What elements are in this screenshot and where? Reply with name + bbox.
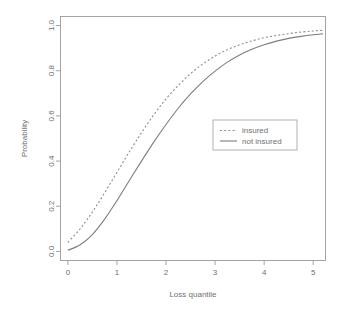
y-tick-label-0.8: 0.8 xyxy=(47,65,56,77)
legend-label-insured: insured xyxy=(242,126,268,135)
x-tick-label-4: 4 xyxy=(262,268,267,277)
x-tick-label-0: 0 xyxy=(66,268,71,277)
y-tick-label-0.4: 0.4 xyxy=(47,155,56,167)
y-tick-label-1.0: 1.0 xyxy=(47,19,56,31)
y-tick-label-0.2: 0.2 xyxy=(47,200,56,212)
y-tick-label-0.6: 0.6 xyxy=(47,110,56,122)
x-tick-label-2: 2 xyxy=(164,268,169,277)
legend-label-not-insured: not insured xyxy=(242,137,282,146)
y-tick-label-0.0: 0.0 xyxy=(47,245,56,257)
x-tick-label-5: 5 xyxy=(311,268,316,277)
plot-canvas: 012345 0.00.20.40.60.81.0 insured not in… xyxy=(0,0,350,315)
x-axis-title: Loss quantile xyxy=(169,290,217,299)
x-tick-label-1: 1 xyxy=(115,268,120,277)
chart-figure: 012345 0.00.20.40.60.81.0 insured not in… xyxy=(0,0,350,315)
y-axis-title: Probability xyxy=(20,120,29,157)
x-tick-label-3: 3 xyxy=(213,268,218,277)
